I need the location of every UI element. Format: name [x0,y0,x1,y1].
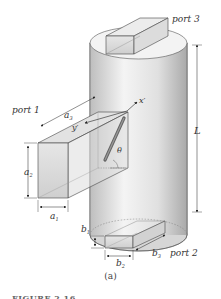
port1-label: port 1 [12,105,40,115]
port2-label: port 2 [170,248,198,258]
waveguide-junction-diagram: port 3 port 1 port 2 L a3 a2 a1 b1 b2 b3… [0,0,221,299]
panel-label: (a) [0,271,221,281]
y-prime-label: y′ [71,123,79,132]
figure-caption: FIGURE 2.16 [12,293,76,299]
L-label: L [193,125,201,136]
port3-label: port 3 [172,14,200,24]
x-prime-label: x′ [139,96,146,105]
b2-label: b2 [116,258,125,269]
theta-label: θ [117,146,122,155]
a2-label: a2 [24,167,33,178]
a3-label: a3 [64,110,73,121]
a1-label: a1 [50,211,59,222]
b1-label: b1 [81,224,90,235]
